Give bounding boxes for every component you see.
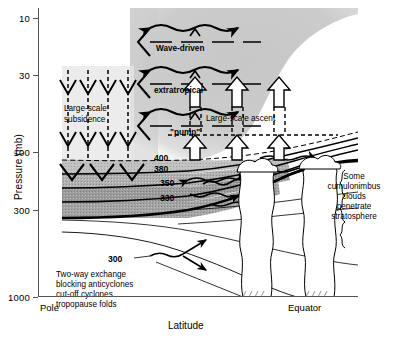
x-axis-line — [38, 296, 358, 297]
isentrope-label-330: 330 — [160, 193, 174, 203]
y-axis-line — [38, 8, 39, 297]
y-tick-300 — [33, 210, 38, 211]
y-tick-30 — [33, 75, 38, 76]
isentrope-label-300: 300 — [108, 254, 122, 264]
label-subsidence-line2: subsidence — [64, 115, 105, 125]
label-cumulonimbus-line4: penetrate — [330, 202, 378, 212]
plot-area: Wave-driven extratropical "pump" Large-s… — [38, 8, 358, 297]
y-tick-label-1000: 1000 — [0, 292, 30, 303]
label-cumulonimbus-line3: clouds — [330, 192, 378, 202]
label-large-scale-ascent: Large-scale ascent — [206, 114, 275, 124]
x-axis-label: Latitude — [168, 320, 204, 331]
isentrope-label-380: 380 — [154, 164, 168, 174]
x-tick-label-pole: Pole — [40, 302, 59, 313]
label-exchange-line4: tropopause folds — [56, 300, 117, 310]
y-tick-100 — [33, 152, 38, 153]
label-cumulonimbus-line2: cumulonimbus — [324, 182, 384, 192]
label-cumulonimbus-line5: stratosphere — [326, 212, 382, 222]
label-subsidence-line1: Large-scale — [64, 104, 107, 114]
label-extratropical: extratropical — [154, 86, 203, 96]
isentrope-label-350: 350 — [160, 178, 174, 188]
isentrope-label-400: 400 — [154, 153, 168, 163]
label-wave-driven: Wave-driven — [156, 44, 204, 54]
y-tick-1000 — [33, 297, 38, 298]
label-exchange-line3: cut-off cyclones — [56, 290, 113, 300]
y-tick-label-30: 30 — [0, 70, 30, 81]
y-axis-label: Pressure (mb) — [13, 134, 24, 200]
label-cumulonimbus-line1: Some — [330, 172, 378, 182]
label-exchange-line2: blocking anticyclones — [56, 280, 133, 290]
y-tick-label-10: 10 — [0, 13, 30, 24]
figure-canvas: Wave-driven extratropical "pump" Large-s… — [0, 0, 402, 337]
y-tick-label-300: 300 — [0, 205, 30, 216]
label-pump: "pump" — [170, 128, 200, 138]
x-tick-label-equator: Equator — [288, 302, 321, 313]
y-tick-10 — [33, 18, 38, 19]
label-exchange-line1: Two-way exchange — [56, 270, 126, 280]
